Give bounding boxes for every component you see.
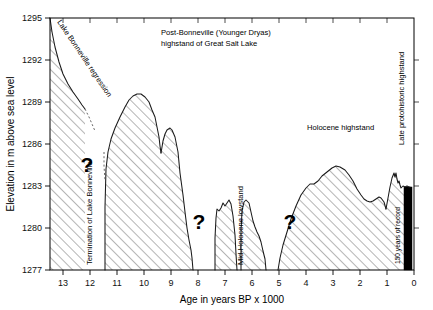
- x-tick-label-1: 1: [384, 278, 389, 288]
- x-tick-label-10: 10: [139, 278, 149, 288]
- annotation-late-protohistoric-highstand: Late protohistoric highstand: [397, 52, 406, 145]
- annotation-post-bonneville-line2: highstand of Great Salt Lake: [161, 39, 257, 48]
- figure-container: ? ? ? Lake Bonneville regression Post-Bo…: [0, 0, 433, 310]
- y-tick-label-1289: 1289: [22, 97, 42, 107]
- question-mark-3: ?: [284, 210, 297, 233]
- black-bar-150-years: [404, 187, 412, 270]
- annotation-holocene-highstand: Holocene highstand: [307, 123, 374, 132]
- y-tick-label-1280: 1280: [22, 223, 42, 233]
- y-tick-label-1292: 1292: [22, 55, 42, 65]
- question-mark-2: ?: [193, 210, 206, 233]
- x-tick-label-5: 5: [276, 278, 281, 288]
- x-axis-title: Age in years BP x 1000: [180, 294, 285, 305]
- y-tick-label-1286: 1286: [22, 139, 42, 149]
- x-tick-label-13: 13: [58, 278, 68, 288]
- x-tick-label-9: 9: [168, 278, 173, 288]
- annotation-mid-holocene-lowstand: Mid-Holocene lowstand: [236, 186, 245, 265]
- x-tick-label-11: 11: [112, 278, 121, 288]
- x-tick-label-4: 4: [303, 278, 308, 288]
- x-tick-label-7: 7: [222, 278, 227, 288]
- x-tick-label-12: 12: [85, 278, 95, 288]
- annotation-150-years-of-record: 150 years of record: [394, 207, 402, 264]
- x-tick-label-3: 3: [330, 278, 335, 288]
- annotation-post-bonneville-line1: Post-Bonneville (Younger Dryas): [161, 28, 271, 37]
- x-tick-label-0: 0: [411, 278, 416, 288]
- y-tick-label-1295: 1295: [22, 13, 42, 23]
- lake-level-chart: ? ? ? Lake Bonneville regression Post-Bo…: [0, 0, 433, 310]
- x-tick-label-8: 8: [195, 278, 200, 288]
- annotation-termination-of-lake-bonneville: Termination of Lake Bonneville: [85, 162, 94, 265]
- y-tick-label-1277: 1277: [22, 265, 42, 275]
- x-tick-label-2: 2: [357, 278, 362, 288]
- y-tick-label-1283: 1283: [22, 181, 42, 191]
- y-axis-title: Elevation in m above sea level: [5, 76, 16, 211]
- x-tick-label-6: 6: [249, 278, 254, 288]
